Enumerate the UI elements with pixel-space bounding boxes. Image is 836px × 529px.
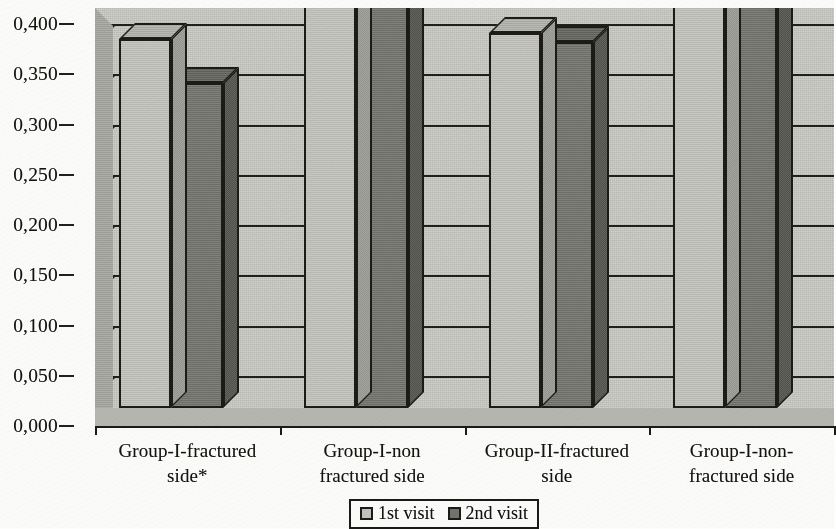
bar-front-face [304, 8, 356, 408]
y-axis-tick-mark [59, 224, 74, 226]
bar-1st-visit [304, 8, 356, 408]
chart-legend: 1st visit 2nd visit [349, 499, 539, 529]
legend-label-1st-visit: 1st visit [378, 503, 435, 524]
x-axis-category-label: Group-I-nonfractured side [280, 438, 465, 488]
y-axis-tick-mark [59, 274, 74, 276]
bar-side-face [777, 8, 793, 408]
y-axis-tick-label: 0,000 [13, 415, 58, 437]
x-axis-category-label: Group-II-fracturedside [465, 438, 650, 488]
x-axis-tick-mark [649, 426, 651, 435]
y-axis-tick-mark [59, 375, 74, 377]
y-axis-tick-mark [59, 124, 74, 126]
bar-side-face [725, 8, 741, 408]
y-axis-tick-label: 0,400 [13, 13, 58, 35]
bar-side-face [223, 67, 239, 408]
y-axis-tick-mark [59, 23, 74, 25]
legend-swatch-icon-2nd-visit [448, 507, 461, 520]
x-axis-category-label: Group-I-non-fractured side [649, 438, 834, 488]
x-axis-tick-mark [95, 426, 97, 435]
y-axis-tick-label: 0,250 [13, 164, 58, 186]
bar-1st-visit [673, 8, 725, 408]
bar-front-face [489, 33, 541, 408]
bar-1st-visit [489, 33, 541, 408]
bar-1st-visit [119, 39, 171, 408]
x-axis-category-label-line: Group-I-non- [649, 438, 834, 463]
y-axis-tick-label: 0,300 [13, 114, 58, 136]
x-axis-category-label-line: Group-I-fractured [95, 438, 280, 463]
legend-item-1st-visit: 1st visit [360, 503, 435, 524]
plot-area [95, 8, 834, 426]
y-axis-tick-label: 0,200 [13, 214, 58, 236]
x-axis-category-label-line: side* [95, 463, 280, 488]
bar-side-face [356, 8, 372, 408]
y-axis-tick-mark [59, 73, 74, 75]
legend-item-2nd-visit: 2nd visit [448, 503, 529, 524]
bar-front-face [119, 39, 171, 408]
y-axis-tick-label: 0,150 [13, 264, 58, 286]
x-axis-category-label-line: fractured side [280, 463, 465, 488]
x-axis-category-label-line: Group-II-fractured [465, 438, 650, 463]
x-axis-labels: Group-I-fracturedside*Group-I-nonfractur… [95, 438, 834, 494]
bar-side-face [408, 8, 424, 408]
x-axis-category-label-line: side [465, 463, 650, 488]
bar-series-group [95, 8, 834, 426]
x-axis-category-label-line: fractured side [649, 463, 834, 488]
legend-label-2nd-visit: 2nd visit [466, 503, 529, 524]
bar-front-face [673, 8, 725, 408]
y-axis-tick-mark [59, 325, 74, 327]
y-axis-tick-label: 0,100 [13, 315, 58, 337]
bar-side-face [541, 17, 557, 408]
y-axis-tick-label: 0,350 [13, 63, 58, 85]
x-axis-tick-mark [280, 426, 282, 435]
bar-side-face [171, 23, 187, 408]
y-axis-tick-mark [59, 425, 74, 427]
y-axis-tick-label: 0,050 [13, 365, 58, 387]
legend-swatch-icon-1st-visit [360, 507, 373, 520]
y-axis: 0,4000,3500,3000,2500,2000,1500,1000,050… [0, 0, 82, 440]
y-axis-tick-mark [59, 174, 74, 176]
x-axis-category-label-line: Group-I-non [280, 438, 465, 463]
bar-side-face [593, 26, 609, 408]
x-axis-tick-mark [465, 426, 467, 435]
x-axis-category-label: Group-I-fracturedside* [95, 438, 280, 488]
